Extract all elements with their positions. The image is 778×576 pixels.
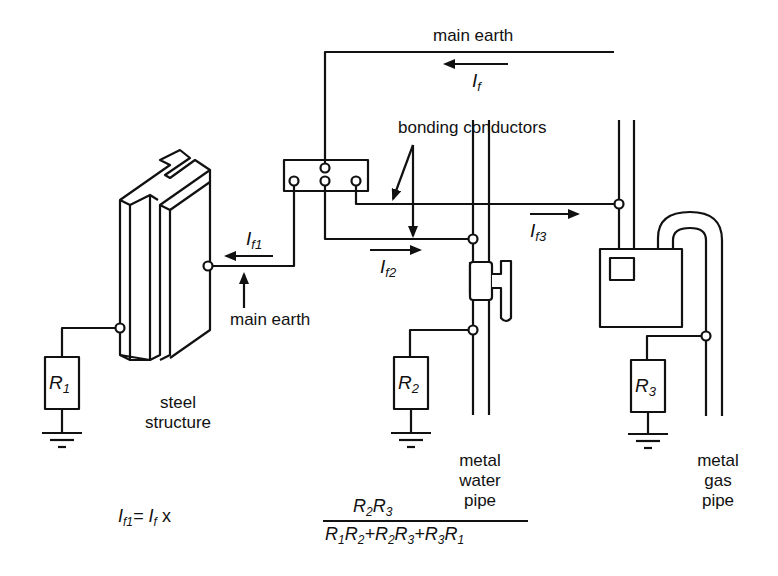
formula-numerator: R2R3 [353, 496, 392, 519]
formula-lhs: If1= If x [118, 506, 171, 529]
formula-denominator: R1R2+R2R3+R3R1 [325, 524, 464, 547]
formula-fraction-bar [323, 520, 528, 522]
label-water-pipe: metal water pipe [440, 451, 520, 511]
resistor-r1-label: R1 [49, 372, 70, 396]
earthing-diagram [0, 0, 778, 576]
gas-meter [600, 249, 682, 327]
resistor-r3-label: R3 [635, 375, 656, 399]
current-if: If [472, 70, 481, 94]
metal-gas-pipe [600, 120, 722, 416]
main-earth-steel-conductor [208, 185, 294, 266]
current-if2: If2 [380, 256, 396, 280]
current-if1: If1 [246, 228, 262, 252]
metal-water-pipe [470, 120, 511, 415]
steel-structure [120, 150, 210, 360]
current-if3: If3 [530, 220, 546, 244]
label-bonding-conductors: bonding conductors [398, 118, 546, 138]
label-gas-pipe: metal gas pipe [678, 451, 758, 511]
main-earth-conductor [325, 52, 614, 168]
label-steel-structure: steel structure [138, 393, 218, 433]
label-main-earth-left: main earth [230, 310, 310, 330]
bonding-conductor-water [325, 185, 470, 239]
label-main-earth-top: main earth [433, 26, 513, 46]
resistor-r2-label: R2 [398, 372, 419, 396]
